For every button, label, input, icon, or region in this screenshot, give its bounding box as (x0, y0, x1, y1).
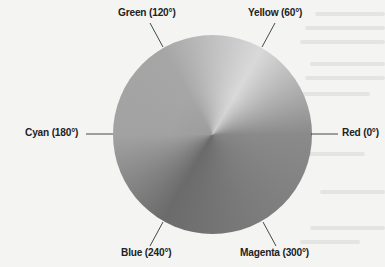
label-green: Green (120°) (118, 6, 176, 18)
leader-line-blue (150, 222, 163, 246)
label-red: Red (0°) (342, 126, 379, 138)
label-magenta: Magenta (300°) (240, 246, 309, 258)
label-yellow: Yellow (60°) (248, 6, 302, 18)
leader-line-yellow (262, 23, 275, 47)
leader-line-magenta (263, 222, 276, 246)
leader-line-green (150, 23, 163, 47)
label-blue: Blue (240°) (121, 246, 171, 258)
label-cyan: Cyan (180°) (25, 126, 78, 138)
